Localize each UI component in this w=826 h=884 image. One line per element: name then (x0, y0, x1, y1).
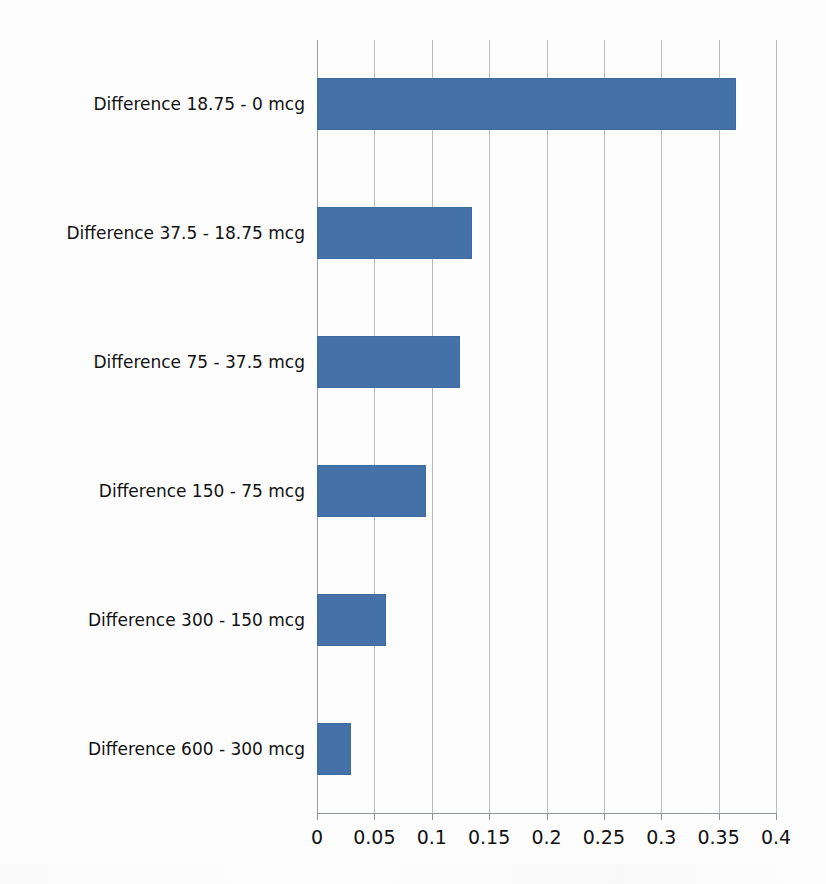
tick-mark-0.3 (661, 813, 662, 820)
tick-mark-0.1 (432, 813, 433, 820)
bar[interactable] (317, 594, 386, 646)
bar-band (317, 427, 776, 556)
tick-mark-0.15 (489, 813, 490, 820)
gridline-x-0.4 (776, 40, 777, 813)
bar-band (317, 298, 776, 427)
bar[interactable] (317, 723, 351, 775)
category-label: Difference 75 - 37.5 mcg (5, 352, 305, 372)
tick-mark-0.35 (719, 813, 720, 820)
bar[interactable] (317, 207, 472, 259)
category-label: Difference 37.5 - 18.75 mcg (5, 223, 305, 243)
category-axis-labels: Difference 18.75 - 0 mcgDifference 37.5 … (0, 40, 305, 813)
tick-mark-0.2 (547, 813, 548, 820)
tick-mark-0.25 (604, 813, 605, 820)
plot-area (317, 40, 776, 813)
tick-mark-0 (317, 813, 318, 820)
tick-mark-0.4 (776, 813, 777, 820)
bar-chart: Difference 18.75 - 0 mcgDifference 37.5 … (0, 0, 826, 884)
bar[interactable] (317, 336, 460, 388)
category-label: Difference 600 - 300 mcg (5, 739, 305, 759)
category-label: Difference 300 - 150 mcg (5, 610, 305, 630)
bar-band (317, 40, 776, 169)
bar-band (317, 169, 776, 298)
bar-band (317, 555, 776, 684)
bar[interactable] (317, 78, 736, 130)
bar[interactable] (317, 465, 426, 517)
tick-mark-0.05 (374, 813, 375, 820)
x-tick-label: 0.4 (736, 826, 816, 849)
scan-noise (0, 864, 826, 884)
bar-band (317, 684, 776, 813)
category-label: Difference 18.75 - 0 mcg (5, 94, 305, 114)
category-label: Difference 150 - 75 mcg (5, 481, 305, 501)
